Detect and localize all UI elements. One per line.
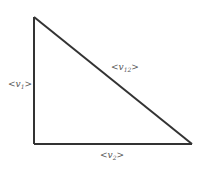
edge-label-v1: <v1>	[8, 80, 32, 89]
edge-label-v2: <v2>	[100, 151, 124, 160]
label-v2-close: >	[116, 150, 124, 160]
edge-v12-line	[34, 17, 192, 144]
label-v12-close: >	[131, 62, 139, 72]
label-v1-base: <v	[8, 79, 21, 89]
edge-label-v12: <v12>	[111, 63, 139, 72]
label-v2-base: <v	[100, 150, 113, 160]
label-v1-close: >	[24, 79, 32, 89]
label-v12-base: <v	[111, 62, 124, 72]
